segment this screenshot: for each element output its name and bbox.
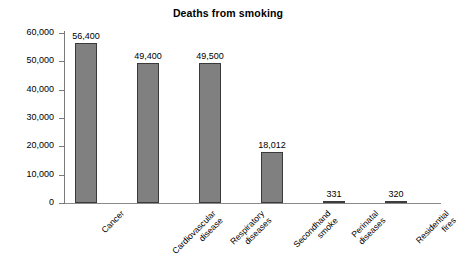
y-tick-label: 20,000: [0, 140, 54, 150]
bar[interactable]: [385, 201, 407, 204]
bar-value-label: 18,012: [242, 140, 302, 150]
x-axis-category-label: Residentialfires: [414, 209, 457, 252]
x-axis-category-label: Secondhandsmoke: [292, 209, 340, 257]
bar[interactable]: [323, 201, 345, 204]
y-tick-label: 0: [0, 197, 54, 207]
bar-value-label: 320: [366, 189, 426, 199]
bar[interactable]: [137, 63, 159, 203]
y-tick-mark: [59, 146, 65, 147]
y-tick-mark: [59, 118, 65, 119]
x-axis-category-label: Perinataldiseases: [350, 209, 387, 246]
y-tick-label: 60,000: [0, 27, 54, 37]
y-tick-mark: [59, 203, 65, 204]
bar-value-label: 56,400: [56, 31, 116, 41]
y-tick-mark: [59, 90, 65, 91]
x-axis-category-label: Respiratorydiseases: [229, 209, 274, 254]
bar[interactable]: [261, 152, 283, 203]
y-tick-mark: [59, 175, 65, 176]
y-tick-label: 50,000: [0, 55, 54, 65]
bar[interactable]: [199, 63, 221, 203]
y-tick-label: 10,000: [0, 169, 54, 179]
bar-value-label: 49,500: [180, 51, 240, 61]
x-axis-line: [64, 203, 441, 204]
x-axis-category-label: Cardiovasculardisease: [171, 209, 225, 263]
x-axis-category-label: Cancer: [100, 209, 126, 235]
y-tick-label: 40,000: [0, 84, 54, 94]
bar-value-label: 49,400: [118, 51, 178, 61]
bar-value-label: 331: [304, 189, 364, 199]
bar[interactable]: [75, 43, 97, 203]
y-tick-label: 30,000: [0, 112, 54, 122]
y-tick-mark: [59, 61, 65, 62]
